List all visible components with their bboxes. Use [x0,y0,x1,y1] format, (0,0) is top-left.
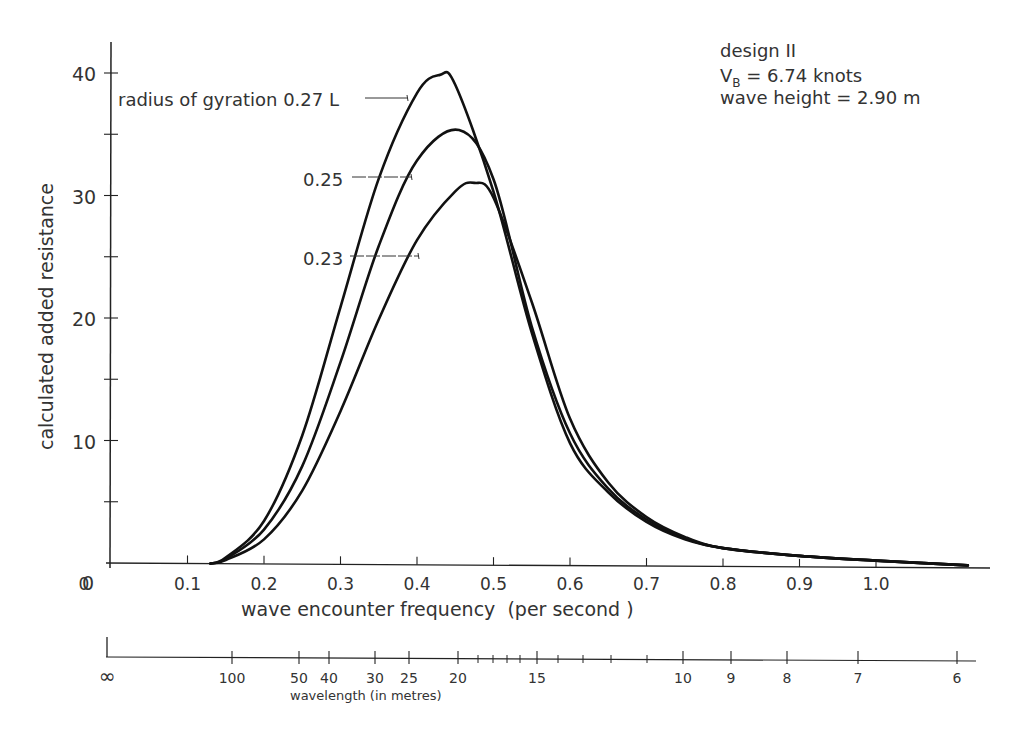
x-tick-label: 0.6 [556,574,583,594]
leader-tick-023 [418,253,419,259]
wavelength-tick-label: 100 [219,670,246,686]
x-axis-label: wave encounter frequency (per second ) [241,598,634,620]
x-tick-label: 0.1 [174,574,201,594]
y-tick-label: 20 [72,308,96,330]
curve-025 [210,130,967,566]
x-tick-label: 0.8 [709,574,736,594]
x-tick-label: 0 [79,574,90,594]
label-023: 0.23 [303,248,343,269]
x-tick-label: 0.9 [786,574,813,594]
x-ticks: 00.10.20.30.40.50.60.70.80.91.0 [79,555,890,594]
wavelength-tick-label: 6 [953,670,962,686]
label-025: 0.25 [303,169,343,190]
curve-023 [210,182,967,565]
wavelength-tick-label: 25 [400,670,418,686]
wavelength-label: wavelength (in metres) [290,688,442,703]
wavelength-axis: ∞100504030252015109876 wavelength (in me… [99,637,976,703]
wavelength-tick-label: 30 [366,670,384,686]
wavelength-tick-label: ∞ [99,664,116,688]
leader-tick-027 [407,95,408,101]
wavelength-ticks: ∞100504030252015109876 [99,651,962,688]
wavelength-tick-label: 10 [674,670,692,686]
wavelength-tick-label: 15 [528,670,546,686]
y-tick-label: 10 [72,431,96,453]
wavelength-tick-label: 40 [320,670,338,686]
added-resistance-chart: 010203040 00.10.20.30.40.50.60.70.80.91.… [0,0,1025,740]
wavelength-tick-label: 50 [290,670,308,686]
x-axis [106,563,990,568]
design-label: design II [720,40,796,61]
design-annotation: design II VB = 6.74 knots wave height = … [720,40,920,108]
wavelength-tick-label: 20 [449,670,467,686]
leader-tick-025 [411,174,412,180]
curves [210,72,967,565]
wave-height-label: wave height = 2.90 m [720,87,920,108]
y-axis-label: calculated added resistance [35,183,57,450]
curve-027 [210,72,967,565]
x-tick-label: 0.7 [633,574,660,594]
wavelength-axis-line [106,657,976,661]
y-tick-label: 30 [72,186,96,208]
wavelength-tick-label: 7 [854,670,863,686]
x-tick-label: 0.2 [250,574,277,594]
wavelength-tick-label: 8 [783,670,792,686]
x-tick-label: 1.0 [862,574,889,594]
x-tick-label: 0.3 [327,574,354,594]
y-axis [110,42,111,568]
x-tick-label: 0.4 [403,574,430,594]
label-027: radius of gyration 0.27 L [118,89,339,110]
y-tick-label: 40 [72,63,96,85]
x-tick-label: 0.5 [480,574,507,594]
wavelength-tick-label: 9 [727,670,736,686]
